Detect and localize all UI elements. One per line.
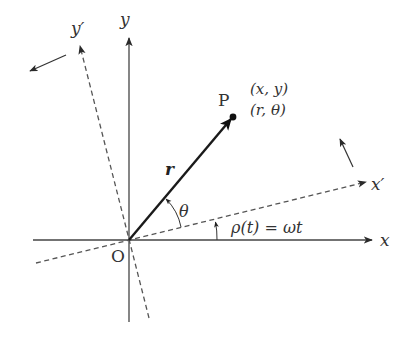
- y-prime-axis-label: y′: [70, 18, 85, 38]
- point-p-label: P: [218, 90, 229, 110]
- rotation-arrow-x-prime: [340, 139, 353, 167]
- theta-label: θ: [179, 202, 189, 221]
- x-axis-label: x: [380, 230, 390, 250]
- rotating-frame-diagram: y y′ x x′ O P (x, y) (r, θ) r θ ρ(t) = ω…: [0, 0, 414, 355]
- y-prime-axis: [80, 46, 149, 318]
- rotation-arrow-y-prime: [30, 55, 66, 71]
- origin-label: O: [111, 246, 125, 266]
- point-p-dot: [230, 114, 237, 121]
- rho-arc: [216, 222, 218, 240]
- rho-label: ρ(t) = ωt: [230, 218, 303, 237]
- y-axis-label: y: [119, 9, 130, 29]
- x-prime-axis: [36, 182, 366, 263]
- cartesian-coords-label: (x, y): [250, 80, 288, 98]
- vector-r-label: r: [165, 159, 175, 179]
- polar-coords-label: (r, θ): [250, 101, 286, 119]
- x-prime-axis-label: x′: [371, 174, 385, 194]
